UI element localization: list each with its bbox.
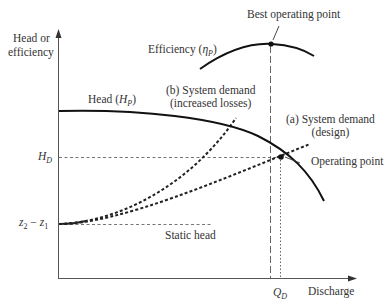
efficiency-curve-label: Efficiency (ηP) — [148, 43, 217, 60]
static-head-label: Static head — [165, 229, 216, 242]
y-axis-arrow-icon — [56, 29, 62, 38]
operating-point-label: Operating point — [311, 155, 384, 168]
best-operating-point-label: Best operating point — [247, 8, 340, 21]
head-curve — [59, 111, 324, 201]
x-axis-label: Discharge — [308, 285, 354, 298]
best-operating-point-marker — [268, 41, 273, 46]
x-axis-arrow-icon — [348, 276, 357, 282]
system-demand-increased-curve — [59, 118, 236, 224]
guide-lines — [59, 46, 282, 278]
system-demand-design-curve — [59, 144, 310, 224]
system-demand-increased-label: (b) System demand (increased losses) — [166, 84, 255, 110]
efficiency-curve — [200, 44, 314, 69]
hd-axis-label: HD — [38, 150, 52, 167]
qd-axis-label: QD — [273, 286, 287, 303]
system-demand-design-label: (a) System demand (design) — [286, 113, 375, 139]
system-curve-origin-segment — [59, 221, 86, 224]
system-curves — [59, 118, 310, 224]
operating-point-marker — [278, 154, 284, 160]
y-axis-label: Head or efficiency — [8, 31, 54, 59]
best-operating-leader — [273, 26, 279, 40]
head-curve-label: Head (HP) — [88, 93, 136, 110]
z2-minus-z1-label: z2 − z1 — [19, 216, 48, 233]
